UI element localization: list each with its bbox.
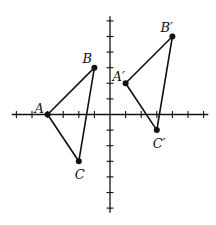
vertex-point	[76, 158, 82, 164]
vertex-label: C	[75, 167, 85, 182]
vertex-label: A′	[112, 69, 125, 84]
vertex-point	[91, 65, 97, 71]
vertex-label: A	[34, 101, 44, 116]
vertex-point	[45, 112, 51, 118]
vertex-labels: ABCA′B′C′	[34, 20, 173, 183]
vertex-point	[154, 127, 160, 133]
coordinate-plane-figure: ABCA′B′C′	[0, 0, 216, 225]
vertex-label: B′	[159, 20, 173, 35]
triangle-A-prime-B-prime-C-prime	[126, 37, 173, 131]
vertex-label: B	[81, 51, 92, 66]
vertex-label: C′	[153, 136, 166, 151]
